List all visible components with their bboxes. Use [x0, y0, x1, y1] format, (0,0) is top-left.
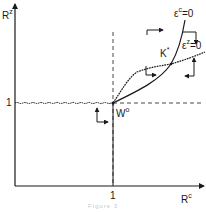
- figure-caption: Figure 3: [0, 203, 206, 209]
- y-axis-label: Rz: [2, 8, 13, 21]
- phase-diagram: Rz Rc 1 1 εc=0 εz=0 K* Wo Figure 3: [0, 0, 206, 214]
- w-origin-label: Wo: [116, 106, 129, 119]
- epsilon-z-label: εz=0: [182, 38, 201, 51]
- direction-arrow-right: [185, 58, 194, 76]
- k-star-label: K*: [160, 46, 169, 59]
- epsilon-c-curve: [113, 20, 185, 103]
- k-star-point: [170, 63, 172, 65]
- direction-arrow-top-left: [147, 30, 163, 35]
- direction-arrow-lower-left: [97, 108, 108, 122]
- diagram-canvas: [0, 0, 206, 214]
- epsilon-c-label: εc=0: [174, 6, 193, 19]
- horizontal-wavy-line: [15, 103, 113, 104]
- w-origin-point: [111, 101, 114, 104]
- x-tick-label: 1: [110, 191, 116, 201]
- y-tick-label: 1: [6, 98, 12, 108]
